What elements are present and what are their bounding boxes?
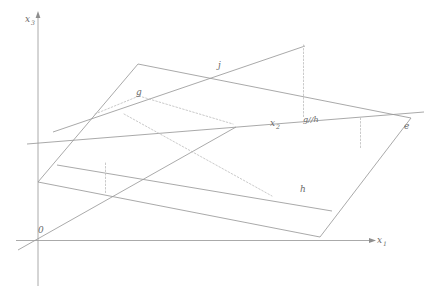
line-g-label: g bbox=[136, 87, 142, 97]
origin-label: 0 bbox=[38, 225, 44, 235]
dotted-segment-to-x2 bbox=[139, 96, 233, 124]
plane-e-label: e bbox=[404, 121, 409, 131]
plane-e-outline bbox=[38, 64, 411, 237]
line-j bbox=[53, 46, 305, 132]
x3-axis-arrow bbox=[36, 11, 41, 18]
axis-label-x3-subscript: 3 bbox=[31, 19, 35, 26]
x2-axis-line bbox=[18, 127, 236, 250]
x1-axis-arrow bbox=[369, 238, 376, 243]
plane-e-polygon bbox=[38, 64, 411, 237]
axis-label-x3-base: x bbox=[25, 14, 30, 24]
labels-group: x 3 x 1 x 2 0 j g h g//h e bbox=[25, 14, 409, 247]
axis-label-x1-subscript: 1 bbox=[383, 240, 387, 247]
axis-label-x2-subscript: 2 bbox=[275, 123, 280, 130]
line-h bbox=[57, 165, 332, 211]
line-g-parallel-h bbox=[27, 112, 424, 144]
axis-label-x2-base: x bbox=[270, 118, 275, 128]
axes-group bbox=[16, 11, 376, 286]
axis-label-x1-base: x bbox=[377, 235, 382, 245]
diagram-canvas: x 3 x 1 x 2 0 j g h g//h e bbox=[0, 0, 433, 296]
line-j-label: j bbox=[216, 60, 221, 70]
line-h-label: h bbox=[300, 184, 306, 194]
parallel-annotation-label: g//h bbox=[303, 115, 319, 124]
geometry-figure: x 3 x 1 x 2 0 j g h g//h e bbox=[0, 0, 433, 296]
